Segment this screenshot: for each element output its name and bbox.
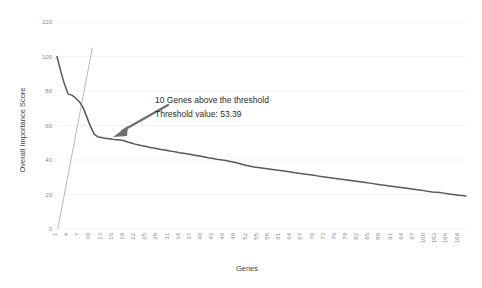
x-tick-label-94: 94 [398,232,404,239]
x-tick-label-10: 10 [85,232,91,239]
threshold-annotation-line1: 10 Genes above the threshold [155,95,269,105]
x-tick-label-97: 97 [409,232,415,239]
x-tick-label-40: 40 [197,232,203,239]
y-axis-title: Overall Importance Score [18,87,27,172]
x-tick-label-88: 88 [375,232,381,239]
x-tick-label-73: 73 [320,232,326,239]
x-tick-label-76: 76 [331,232,337,239]
x-tick-label-52: 52 [242,232,248,239]
x-tick-label-19: 19 [119,232,125,239]
x-tick-label-79: 79 [342,232,348,239]
x-tick-label-67: 67 [297,232,303,239]
chart-container: 020406080100120 147101316192225283134374… [0,0,482,288]
x-tick-label-70: 70 [309,232,315,239]
x-tick-label-43: 43 [208,232,214,239]
threshold-annotation-line2: Threshold value: 53.39 [155,109,242,119]
x-tick-label-100: 100 [420,232,426,243]
x-tick-label-103: 103 [431,232,437,243]
x-tick-label-82: 82 [353,232,359,239]
chart-background [0,0,482,288]
x-tick-label-25: 25 [141,232,147,239]
y-tick-label-100: 100 [42,54,53,60]
x-tick-label-91: 91 [387,232,393,239]
x-tick-label-55: 55 [253,232,259,239]
x-tick-label-46: 46 [219,232,225,239]
y-tick-label-120: 120 [42,19,53,25]
x-tick-label-49: 49 [230,232,236,239]
x-tick-label-58: 58 [264,232,270,239]
importance-score-line-chart: 020406080100120 147101316192225283134374… [0,0,482,288]
x-tick-label-28: 28 [152,232,158,239]
x-tick-label-61: 61 [275,232,281,239]
x-tick-label-109: 109 [454,232,460,243]
x-axis-title: Genes [236,264,258,273]
y-tick-label-20: 20 [45,192,52,198]
x-tick-label-31: 31 [164,232,170,239]
x-tick-label-16: 16 [108,232,114,239]
y-tick-label-80: 80 [45,88,52,94]
x-tick-label-85: 85 [364,232,370,239]
x-tick-label-13: 13 [97,232,103,239]
x-tick-label-22: 22 [130,232,136,239]
y-tick-label-60: 60 [45,123,52,129]
x-tick-label-37: 37 [186,232,192,239]
x-tick-label-34: 34 [175,232,181,239]
x-tick-label-64: 64 [286,232,292,239]
y-tick-label-40: 40 [45,157,52,163]
x-tick-label-106: 106 [442,232,448,243]
